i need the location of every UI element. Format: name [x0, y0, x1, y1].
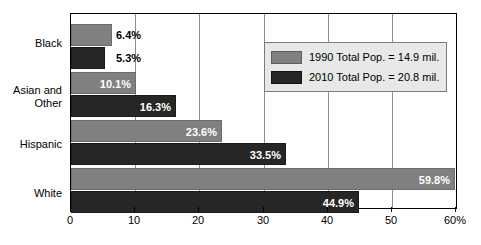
x-tick-label-30: 30: [257, 214, 269, 226]
bar-value-asian-2010: 16.3%: [140, 96, 171, 118]
x-axis: 0 10 20 30 40 50 60%: [70, 207, 456, 237]
x-tick-label-40: 40: [321, 214, 333, 226]
x-tick-label-50: 50: [385, 214, 397, 226]
bar-value-black-1990: 6.4%: [116, 24, 141, 46]
bar-asian-2010[interactable]: 16.3%: [71, 95, 176, 117]
legend-label-1990: 1990 Total Pop. = 14.9 mil.: [309, 51, 439, 63]
x-tick-30: [263, 207, 264, 212]
y-category-asian-line2: Other: [0, 97, 62, 110]
series-1990-swatch-icon: [271, 51, 302, 64]
y-category-white-line1: White: [0, 187, 62, 200]
y-category-asian-and-other: Asian and Other: [0, 84, 62, 110]
y-category-hispanic-line1: Hispanic: [0, 138, 62, 151]
bar-hispanic-1990[interactable]: 23.6%: [71, 120, 222, 142]
x-tick-20: [198, 207, 199, 212]
x-tick-label-0: 0: [67, 214, 73, 226]
x-tick-60: [455, 207, 456, 212]
legend-entry-1990[interactable]: 1990 Total Pop. = 14.9 mil.: [271, 47, 440, 67]
x-tick-label-20: 20: [192, 214, 204, 226]
bar-white-1990[interactable]: 59.8%: [71, 168, 455, 190]
x-tick-label-10: 10: [128, 214, 140, 226]
series-2010-swatch-icon: [271, 71, 302, 84]
bar-group-hispanic: 23.6% 33.5%: [71, 120, 456, 166]
bar-value-hispanic-2010: 33.5%: [250, 144, 281, 166]
legend-entry-2010[interactable]: 2010 Total Pop. = 20.8 mil.: [271, 67, 440, 87]
bar-asian-1990[interactable]: 10.1%: [71, 72, 136, 94]
bar-value-white-1990: 59.8%: [419, 169, 450, 191]
bar-black-2010[interactable]: [71, 47, 105, 69]
y-category-black: Black: [0, 37, 62, 50]
x-tick-40: [327, 207, 328, 212]
y-category-black-line1: Black: [0, 37, 62, 50]
y-category-hispanic: Hispanic: [0, 138, 62, 151]
y-category-white: White: [0, 187, 62, 200]
bar-value-hispanic-1990: 23.6%: [186, 121, 217, 143]
bar-value-asian-1990: 10.1%: [100, 73, 131, 95]
y-category-asian-line1: Asian and: [0, 84, 62, 97]
legend: 1990 Total Pop. = 14.9 mil. 2010 Total P…: [264, 42, 447, 92]
bar-value-black-2010: 5.3%: [116, 47, 141, 69]
bar-black-1990[interactable]: [71, 24, 112, 46]
bar-hispanic-2010[interactable]: 33.5%: [71, 143, 286, 165]
x-tick-10: [134, 207, 135, 212]
y-axis-category-labels: Black Asian and Other Hispanic White: [0, 13, 66, 207]
x-tick-0: [70, 207, 71, 212]
x-tick-label-60: 60%: [444, 214, 466, 226]
bar-chart: Black Asian and Other Hispanic White 6.4…: [0, 0, 481, 245]
legend-label-2010: 2010 Total Pop. = 20.8 mil.: [309, 71, 439, 83]
x-tick-50: [391, 207, 392, 212]
